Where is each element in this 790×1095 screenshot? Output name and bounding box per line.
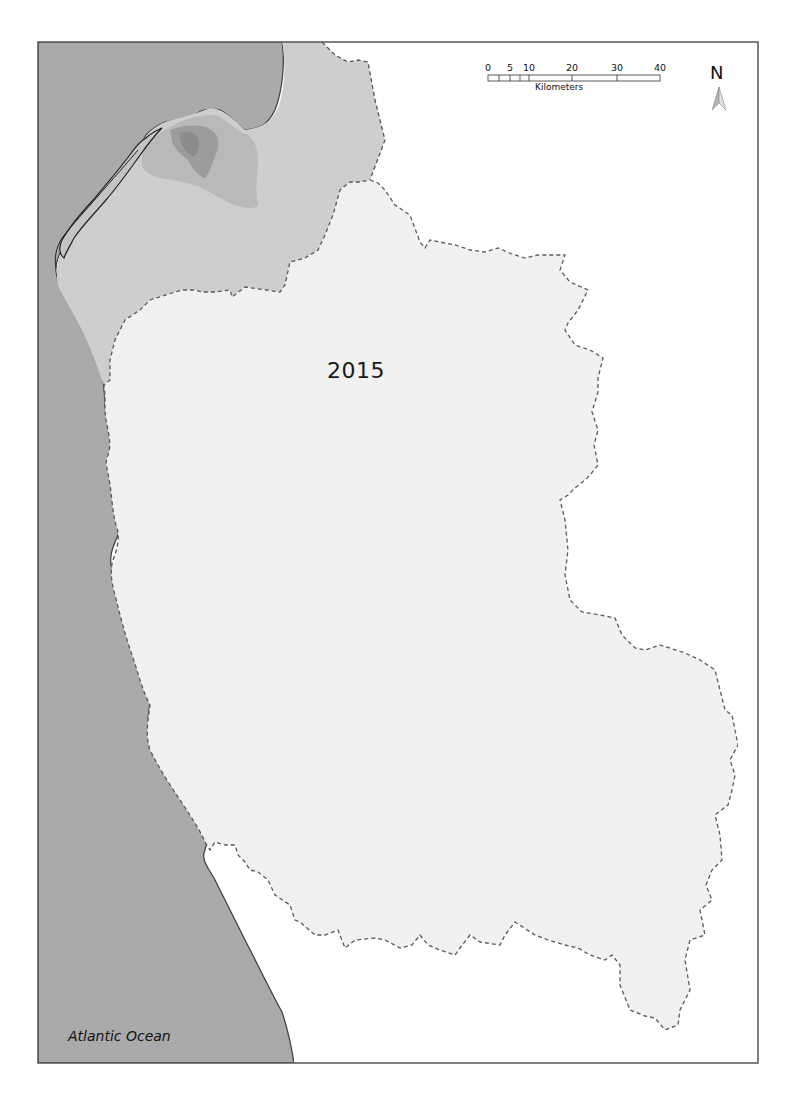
map-canvas (0, 0, 790, 1095)
north-arrow: N (706, 62, 736, 112)
north-letter: N (710, 62, 723, 83)
year-label: 2015 (327, 358, 385, 383)
map-frame: 2015 Atlantic Ocean 0 5 10 20 30 40 Kilo… (0, 0, 790, 1095)
ocean-label: Atlantic Ocean (68, 1028, 171, 1044)
scale-unit-label: Kilometers (535, 82, 583, 92)
north-arrow-icon (708, 86, 730, 112)
scale-bar: 0 5 10 20 30 40 Kilometers (485, 62, 645, 102)
